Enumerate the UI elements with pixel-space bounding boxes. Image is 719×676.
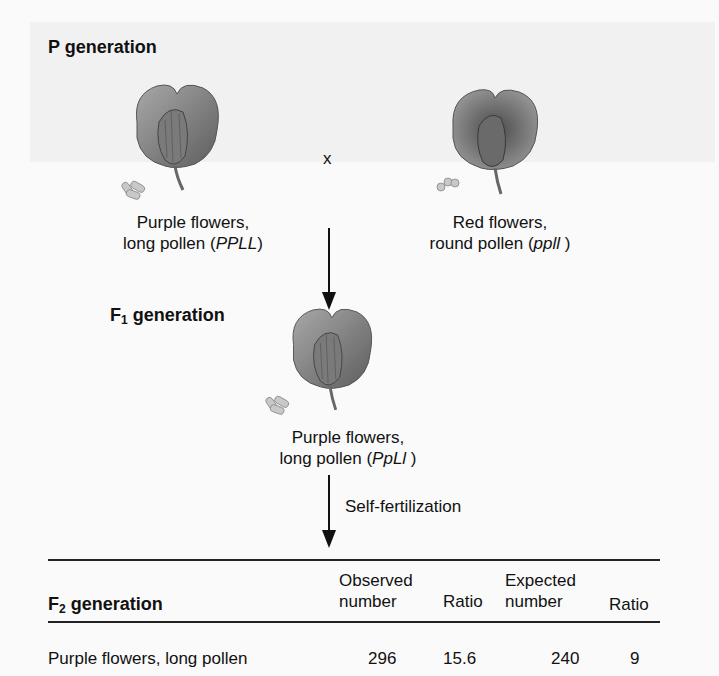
column-header-observed-ratio: Ratio [443, 591, 483, 612]
figure-page: P generation x Purpl [0, 0, 719, 676]
p-generation-heading: P generation [48, 37, 157, 58]
purple-flower-icon [125, 82, 225, 192]
parent-left-phenotype-line2: long pollen (PPLL) [98, 233, 288, 254]
table-header-rule [48, 621, 660, 623]
parent-right-phenotype-line1: Red flowers, [400, 212, 600, 233]
row-expected-number: 240 [551, 648, 579, 669]
f1-phenotype-line1: Purple flowers, [248, 427, 448, 448]
table-top-rule [48, 559, 660, 561]
row-phenotype: Purple flowers, long pollen [48, 648, 247, 669]
header-line2: number [505, 591, 576, 612]
f2-generation-heading: F2 generation [48, 594, 163, 615]
paren-close: ) [406, 449, 416, 468]
f1-phenotype-line2: long pollen (PpLl ) [248, 448, 448, 469]
heading-prefix: F [48, 594, 59, 614]
cross-symbol: x [323, 148, 332, 169]
long-pollen-icon [266, 395, 296, 417]
heading-subscript: 2 [59, 602, 66, 616]
parent-left-caption: Purple flowers, long pollen (PPLL) [98, 212, 288, 254]
heading-prefix: F [110, 305, 121, 325]
row-expected-ratio: 9 [630, 648, 639, 669]
parent-right-pollen-label: round pollen ( [430, 234, 534, 253]
header-line1: Expected [505, 570, 576, 591]
self-fertilization-label: Self-fertilization [345, 496, 461, 517]
row-observed-ratio: 15.6 [443, 648, 476, 669]
parent-right-caption: Red flowers, round pollen (ppll ) [400, 212, 600, 254]
header-line1: Observed [339, 570, 413, 591]
parent-left-genotype: PPLL [216, 234, 258, 253]
parent-left-phenotype-line1: Purple flowers, [98, 212, 288, 233]
row-observed-number: 296 [368, 648, 396, 669]
purple-flower-icon [282, 305, 378, 413]
column-header-observed-number: Observed number [339, 570, 413, 612]
f1-generation-heading: F1 generation [110, 305, 225, 326]
parent-right-genotype: ppll [534, 234, 560, 253]
heading-suffix: generation [66, 594, 163, 614]
column-header-expected-number: Expected number [505, 570, 576, 612]
column-header-expected-ratio: Ratio [609, 594, 649, 615]
f1-pollen-label: long pollen ( [279, 449, 372, 468]
long-pollen-icon [122, 180, 152, 202]
heading-suffix: generation [128, 305, 225, 325]
paren-close: ) [257, 234, 263, 253]
round-pollen-icon [436, 176, 462, 192]
f1-offspring-caption: Purple flowers, long pollen (PpLl ) [248, 427, 448, 469]
f1-genotype: PpLl [372, 449, 406, 468]
parent-left-pollen-label: long pollen ( [123, 234, 216, 253]
paren-close: ) [560, 234, 570, 253]
header-line2: number [339, 591, 413, 612]
heading-subscript: 1 [121, 313, 128, 327]
parent-right-phenotype-line2: round pollen (ppll ) [400, 233, 600, 254]
